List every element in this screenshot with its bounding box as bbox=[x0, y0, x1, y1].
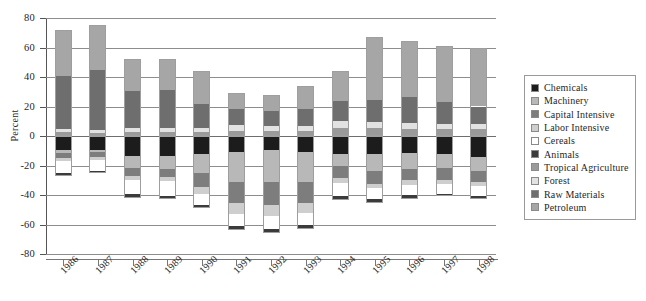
bar-segment[interactable] bbox=[470, 196, 487, 199]
bar-segment[interactable] bbox=[228, 152, 245, 182]
bar-segment[interactable] bbox=[263, 95, 280, 110]
bar-segment[interactable] bbox=[193, 187, 210, 194]
legend-item[interactable]: Forest bbox=[531, 174, 629, 187]
bar-group[interactable] bbox=[366, 18, 383, 254]
bar-segment[interactable] bbox=[159, 169, 176, 177]
bar-segment[interactable] bbox=[470, 186, 487, 196]
bar-segment[interactable] bbox=[297, 203, 314, 213]
bar-group[interactable] bbox=[193, 18, 210, 254]
bar-segment[interactable] bbox=[89, 25, 106, 70]
legend-item[interactable]: Chemicals bbox=[531, 81, 629, 94]
bar-segment[interactable] bbox=[55, 30, 72, 76]
bar-segment[interactable] bbox=[193, 104, 210, 128]
legend-item[interactable]: Capital Intensive bbox=[531, 108, 629, 121]
legend-item[interactable]: Cereals bbox=[531, 134, 629, 147]
bar-segment[interactable] bbox=[436, 46, 453, 102]
bar-segment[interactable] bbox=[124, 59, 141, 91]
bar-segment[interactable] bbox=[401, 41, 418, 97]
bar-segment[interactable] bbox=[297, 225, 314, 229]
bar-group[interactable] bbox=[228, 18, 245, 254]
bar-segment[interactable] bbox=[228, 93, 245, 108]
bar-segment[interactable] bbox=[366, 199, 383, 203]
bar-segment[interactable] bbox=[228, 214, 245, 226]
bar-segment[interactable] bbox=[470, 157, 487, 171]
bar-segment[interactable] bbox=[55, 132, 72, 136]
bar-segment[interactable] bbox=[55, 173, 72, 176]
bar-segment[interactable] bbox=[228, 109, 245, 125]
bar-segment[interactable] bbox=[159, 128, 176, 132]
bar-group[interactable] bbox=[297, 18, 314, 254]
bar-segment[interactable] bbox=[193, 154, 210, 173]
bar-segment[interactable] bbox=[401, 185, 418, 195]
legend-item[interactable]: Machinery bbox=[531, 94, 629, 107]
bar-segment[interactable] bbox=[436, 184, 453, 194]
bar-segment[interactable] bbox=[436, 136, 453, 154]
bar-segment[interactable] bbox=[436, 124, 453, 129]
bar-segment[interactable] bbox=[366, 37, 383, 100]
bar-segment[interactable] bbox=[193, 132, 210, 136]
bar-segment[interactable] bbox=[470, 48, 487, 106]
bar-group[interactable] bbox=[436, 18, 453, 254]
bar-segment[interactable] bbox=[263, 126, 280, 131]
bar-segment[interactable] bbox=[401, 123, 418, 129]
bar-segment[interactable] bbox=[263, 229, 280, 233]
bar-segment[interactable] bbox=[297, 213, 314, 224]
bar-segment[interactable] bbox=[470, 136, 487, 157]
bar-segment[interactable] bbox=[55, 129, 72, 132]
bar-segment[interactable] bbox=[124, 128, 141, 132]
bar-segment[interactable] bbox=[124, 91, 141, 128]
bar-segment[interactable] bbox=[366, 122, 383, 128]
bar-group[interactable] bbox=[89, 18, 106, 254]
bar-segment[interactable] bbox=[159, 181, 176, 196]
bar-group[interactable] bbox=[401, 18, 418, 254]
bar-segment[interactable] bbox=[228, 131, 245, 136]
bar-segment[interactable] bbox=[436, 154, 453, 168]
bar-segment[interactable] bbox=[332, 183, 349, 196]
bar-segment[interactable] bbox=[401, 195, 418, 199]
bar-segment[interactable] bbox=[366, 171, 383, 184]
bar-group[interactable] bbox=[470, 18, 487, 254]
bar-segment[interactable] bbox=[193, 136, 210, 154]
legend-item[interactable]: Petroleum bbox=[531, 201, 629, 214]
bar-segment[interactable] bbox=[436, 194, 453, 197]
bar-segment[interactable] bbox=[55, 161, 72, 173]
bar-segment[interactable] bbox=[366, 136, 383, 154]
bar-segment[interactable] bbox=[470, 129, 487, 136]
legend-item[interactable]: Tropical Agriculture bbox=[531, 161, 629, 174]
legend-item[interactable]: Raw Materials bbox=[531, 187, 629, 200]
bar-segment[interactable] bbox=[297, 131, 314, 136]
bar-segment[interactable] bbox=[436, 102, 453, 124]
bar-segment[interactable] bbox=[401, 129, 418, 136]
bar-segment[interactable] bbox=[89, 136, 106, 150]
bar-segment[interactable] bbox=[124, 180, 141, 195]
bar-segment[interactable] bbox=[228, 136, 245, 152]
legend-item[interactable]: Animals bbox=[531, 147, 629, 160]
bar-segment[interactable] bbox=[436, 129, 453, 136]
bar-segment[interactable] bbox=[159, 156, 176, 169]
bar-segment[interactable] bbox=[89, 133, 106, 136]
bar-segment[interactable] bbox=[297, 109, 314, 126]
bar-segment[interactable] bbox=[89, 160, 106, 171]
bar-segment[interactable] bbox=[124, 156, 141, 168]
bar-group[interactable] bbox=[159, 18, 176, 254]
bar-segment[interactable] bbox=[193, 173, 210, 187]
bar-segment[interactable] bbox=[228, 125, 245, 131]
bar-segment[interactable] bbox=[263, 205, 280, 217]
bar-segment[interactable] bbox=[193, 205, 210, 208]
bar-segment[interactable] bbox=[332, 154, 349, 166]
bar-segment[interactable] bbox=[263, 131, 280, 136]
bar-segment[interactable] bbox=[332, 121, 349, 128]
legend-item[interactable]: Labor Intensive bbox=[531, 121, 629, 134]
bar-segment[interactable] bbox=[332, 196, 349, 200]
bar-segment[interactable] bbox=[263, 216, 280, 229]
bar-segment[interactable] bbox=[366, 128, 383, 136]
bar-segment[interactable] bbox=[297, 182, 314, 203]
bar-segment[interactable] bbox=[89, 70, 106, 130]
bar-segment[interactable] bbox=[263, 136, 280, 150]
bar-segment[interactable] bbox=[55, 76, 72, 130]
bar-group[interactable] bbox=[55, 18, 72, 254]
bar-segment[interactable] bbox=[366, 188, 383, 199]
bar-segment[interactable] bbox=[159, 132, 176, 136]
bar-segment[interactable] bbox=[401, 153, 418, 169]
bar-segment[interactable] bbox=[332, 128, 349, 136]
